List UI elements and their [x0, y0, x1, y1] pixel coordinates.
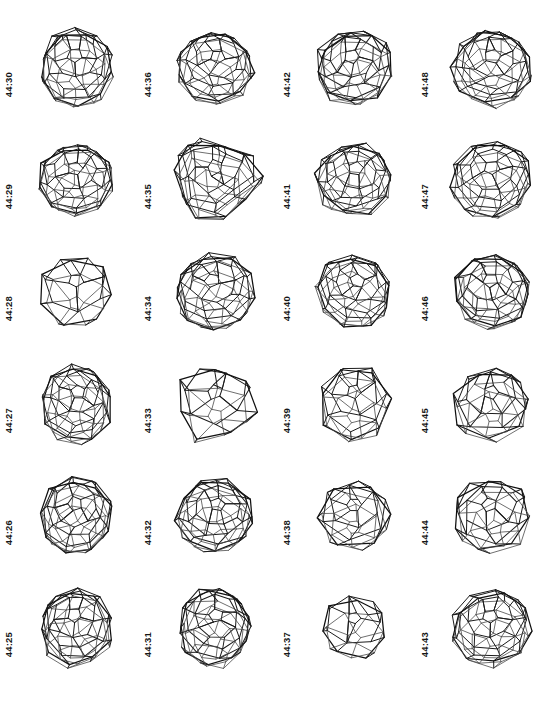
isomer-label: 44:35 — [143, 184, 153, 209]
fullerene-cage — [26, 130, 126, 230]
isomer-cell: 44:32 — [139, 460, 278, 572]
isomer-cell: 44:41 — [278, 124, 417, 236]
fullerene-cage — [441, 353, 543, 455]
cage-container — [291, 124, 416, 236]
cage-container — [152, 12, 277, 124]
isomer-cell: 44:40 — [278, 236, 417, 348]
isomer-cell: 44:36 — [139, 12, 278, 124]
fullerene-cage — [304, 242, 404, 342]
cage-container — [291, 348, 416, 460]
isomer-cell: 44:47 — [416, 124, 555, 236]
isomer-cell: 44:31 — [139, 572, 278, 684]
isomer-label: 44:36 — [143, 72, 153, 97]
fullerene-cage — [441, 465, 543, 567]
isomer-cell: 44:30 — [0, 12, 139, 124]
isomer-label: 44:43 — [420, 632, 430, 657]
cage-container — [152, 124, 277, 236]
isomer-label: 44:32 — [143, 520, 153, 545]
cage-container — [14, 124, 139, 236]
fullerene-cage — [310, 584, 398, 672]
isomer-label: 44:47 — [420, 184, 430, 209]
fullerene-cage — [164, 353, 266, 455]
isomer-cell: 44:39 — [278, 348, 417, 460]
cage-container — [14, 12, 139, 124]
cage-container — [152, 236, 277, 348]
cage-container — [430, 348, 555, 460]
cage-container — [14, 572, 139, 684]
cage-container — [152, 572, 277, 684]
isomer-cell: 44:28 — [0, 236, 139, 348]
fullerene-cage — [304, 354, 404, 454]
isomer-label: 44:42 — [282, 72, 292, 97]
isomer-label: 44:41 — [282, 184, 292, 209]
isomer-cell: 44:27 — [0, 348, 139, 460]
cage-container — [430, 236, 555, 348]
isomer-label: 44:31 — [143, 632, 153, 657]
fullerene-cage — [164, 577, 266, 679]
isomer-label: 44:44 — [420, 520, 430, 545]
isomer-cell: 44:34 — [139, 236, 278, 348]
isomer-label: 44:45 — [420, 408, 430, 433]
fullerene-cage — [303, 17, 405, 119]
fullerene-cage — [304, 130, 404, 230]
cage-container — [14, 348, 139, 460]
fullerene-cage — [163, 240, 267, 344]
isomer-cell: 44:35 — [139, 124, 278, 236]
isomer-cell: 44:25 — [0, 572, 139, 684]
cage-container — [291, 12, 416, 124]
cage-container — [152, 348, 277, 460]
isomer-label: 44:33 — [143, 408, 153, 433]
isomer-label: 44:27 — [4, 408, 14, 433]
fullerene-cage — [24, 16, 128, 120]
isomer-label: 44:25 — [4, 632, 14, 657]
cage-container — [430, 572, 555, 684]
isomer-label: 44:40 — [282, 296, 292, 321]
isomer-cell: 44:38 — [278, 460, 417, 572]
fullerene-cage — [306, 468, 402, 564]
isomer-cell: 44:46 — [416, 236, 555, 348]
isomer-label: 44:48 — [420, 72, 430, 97]
figure-plate: 44:3044:3644:4244:4844:2944:3544:4144:47… — [0, 0, 555, 715]
isomer-cell: 44:48 — [416, 12, 555, 124]
isomer-label: 44:28 — [4, 296, 14, 321]
cage-container — [14, 460, 139, 572]
cage-container — [14, 236, 139, 348]
isomer-cell: 44:26 — [0, 460, 139, 572]
cage-container — [430, 12, 555, 124]
isomer-label: 44:37 — [282, 632, 292, 657]
fullerene-cage — [441, 241, 543, 343]
isomer-label: 44:29 — [4, 184, 14, 209]
isomer-cell: 44:42 — [278, 12, 417, 124]
isomer-cell: 44:44 — [416, 460, 555, 572]
cage-container — [291, 236, 416, 348]
fullerene-cage — [440, 576, 544, 680]
isomer-label: 44:30 — [4, 72, 14, 97]
isomer-cell: 44:43 — [416, 572, 555, 684]
isomer-label: 44:26 — [4, 520, 14, 545]
cage-container — [430, 460, 555, 572]
fullerene-cage — [440, 128, 544, 232]
fullerene-cage — [440, 16, 544, 120]
isomer-cell: 44:37 — [278, 572, 417, 684]
isomer-label: 44:34 — [143, 296, 153, 321]
isomer-grid: 44:3044:3644:4244:4844:2944:3544:4144:47… — [0, 0, 555, 715]
isomer-label: 44:46 — [420, 296, 430, 321]
isomer-label: 44:39 — [282, 408, 292, 433]
isomer-cell: 44:29 — [0, 124, 139, 236]
cage-container — [291, 460, 416, 572]
isomer-cell: 44:33 — [139, 348, 278, 460]
fullerene-cage — [26, 354, 126, 454]
fullerene-cage — [161, 126, 269, 234]
fullerene-cage — [165, 18, 265, 118]
fullerene-cage — [27, 243, 125, 341]
fullerene-cage — [25, 465, 127, 567]
cage-container — [430, 124, 555, 236]
isomer-cell: 44:45 — [416, 348, 555, 460]
fullerene-cage — [164, 465, 266, 567]
isomer-label: 44:38 — [282, 520, 292, 545]
fullerene-cage — [25, 577, 127, 679]
cage-container — [152, 460, 277, 572]
cage-container — [291, 572, 416, 684]
